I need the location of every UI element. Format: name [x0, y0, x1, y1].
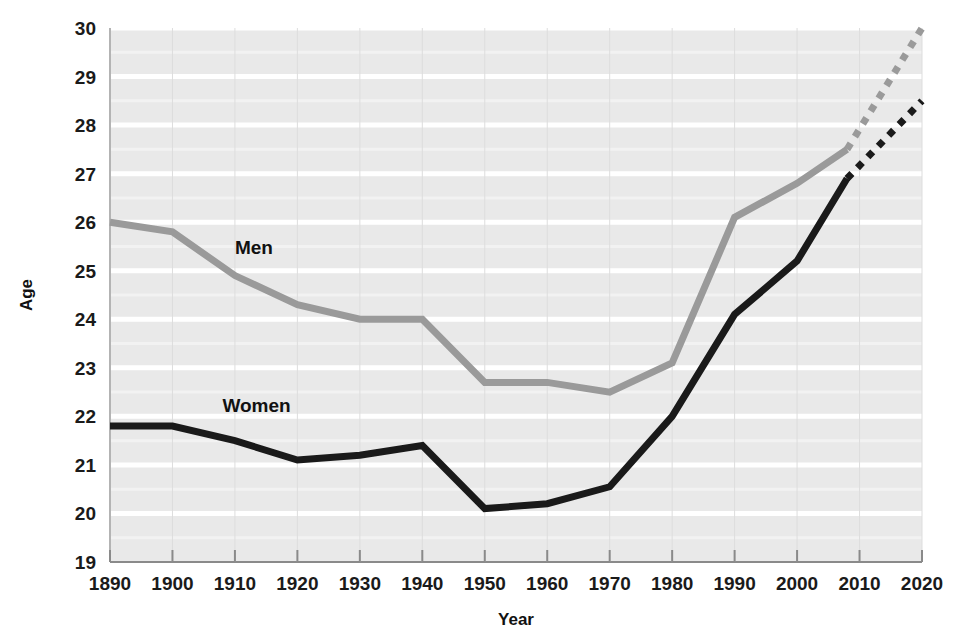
x-tick-label: 1890	[89, 573, 131, 594]
x-axis-title: Year	[498, 610, 534, 629]
x-tick-label: 1960	[526, 573, 568, 594]
y-tick-label: 25	[75, 261, 97, 282]
y-tick-label: 19	[75, 552, 96, 573]
y-tick-label: 29	[75, 67, 96, 88]
x-tick-label: 2000	[776, 573, 818, 594]
x-tick-label: 2020	[901, 573, 943, 594]
y-axis-title: Age	[17, 279, 36, 311]
y-tick-label: 22	[75, 406, 96, 427]
series-label-men: Men	[235, 237, 273, 258]
y-tick-label: 28	[75, 115, 96, 136]
y-tick-label: 20	[75, 503, 96, 524]
x-tick-labels-group: 1890190019101920193019401950196019701980…	[89, 573, 943, 594]
y-tick-label: 26	[75, 212, 96, 233]
x-tick-label: 1940	[401, 573, 443, 594]
series-label-women: Women	[222, 395, 290, 416]
x-tick-label: 1950	[464, 573, 506, 594]
x-tick-label: 1980	[651, 573, 693, 594]
y-tick-label: 24	[75, 309, 97, 330]
x-tick-label: 1970	[589, 573, 631, 594]
x-tick-label: 1990	[713, 573, 755, 594]
y-tick-label: 21	[75, 455, 97, 476]
x-tick-label: 2010	[838, 573, 880, 594]
x-tick-label: 1910	[214, 573, 256, 594]
y-tick-label: 23	[75, 358, 96, 379]
y-tick-labels-group: 192021222324252627282930	[75, 18, 97, 573]
y-tick-label: 27	[75, 164, 96, 185]
x-tick-label: 1930	[339, 573, 381, 594]
x-tick-label: 1920	[276, 573, 318, 594]
x-tick-label: 1900	[151, 573, 193, 594]
y-tick-label: 30	[75, 18, 96, 39]
chart-container: 1890190019101920193019401950196019701980…	[0, 0, 961, 635]
line-chart: 1890190019101920193019401950196019701980…	[0, 0, 961, 635]
